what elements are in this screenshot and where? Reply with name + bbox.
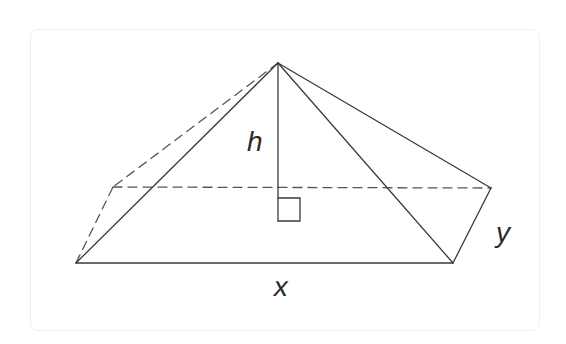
edge-apex-front-left [76,63,278,263]
edge-base-right [453,188,491,263]
edge-apex-front-right [278,63,453,263]
edge-front-left-back-left [76,187,113,263]
edge-apex-back-right [278,63,491,188]
edge-apex-back-left [113,63,278,187]
edge-back-left-back-right [113,187,491,188]
height-label: h [247,128,263,156]
base-width-label: y [496,219,510,247]
right-angle-marker [278,198,300,221]
